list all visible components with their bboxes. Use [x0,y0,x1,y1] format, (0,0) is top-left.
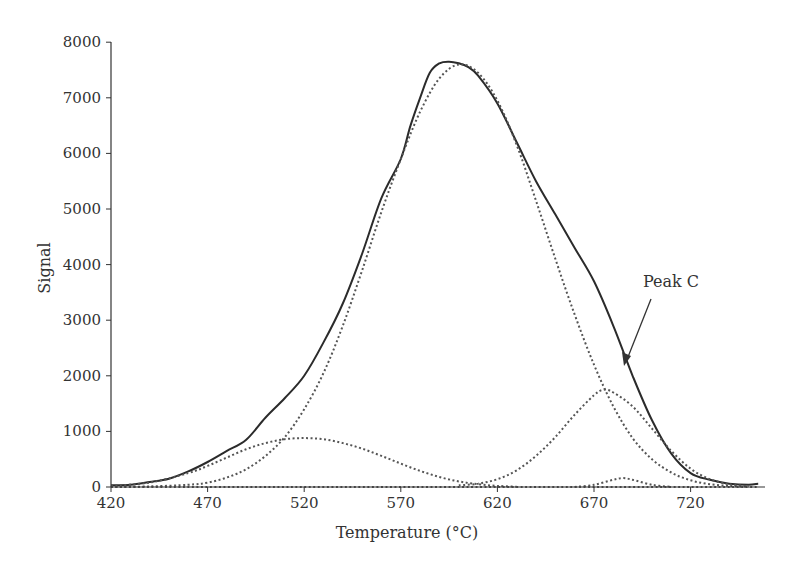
y-tick-label: 3000 [63,311,101,329]
chart: 010002000300040005000600070008000 420470… [0,0,797,575]
y-axis: 010002000300040005000600070008000 [63,33,111,496]
y-tick-label: 6000 [63,144,101,162]
series-line [111,438,517,487]
y-tick-label: 1000 [63,422,101,440]
y-tick-label: 7000 [63,89,101,107]
x-tick-label: 420 [97,494,126,512]
x-tick-label: 470 [193,494,222,512]
x-tick-label: 570 [386,494,415,512]
annotation-label: Peak C [643,272,699,291]
x-tick-label: 520 [290,494,319,512]
annotation-arrow-icon [626,299,651,362]
x-tick-label: 670 [580,494,609,512]
x-axis-title: Temperature (°C) [336,523,479,542]
y-tick-label: 2000 [63,367,101,385]
y-tick-label: 8000 [63,33,101,51]
annotation-peak-c: Peak C [622,272,699,366]
x-tick-label: 620 [483,494,512,512]
y-tick-label: 5000 [63,200,101,218]
series-line [459,390,749,487]
x-axis: 420470520570620670720 [97,487,765,512]
x-tick-label: 720 [676,494,705,512]
y-axis-title: Signal [35,242,54,293]
y-tick-label: 4000 [63,256,101,274]
series-line [575,478,672,487]
